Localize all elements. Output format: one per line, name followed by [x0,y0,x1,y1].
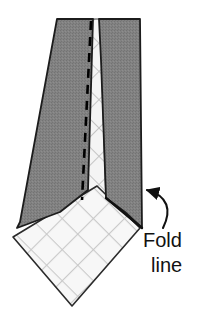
diagram-canvas: Fold line [0,0,202,316]
fold-label-line-2: line [151,254,182,276]
necktie-fold-diagram: Fold line [0,0,202,316]
fold-line-arrow [147,190,168,228]
fold-label-line-1: Fold [143,229,182,251]
tie-right-panel [99,19,142,228]
